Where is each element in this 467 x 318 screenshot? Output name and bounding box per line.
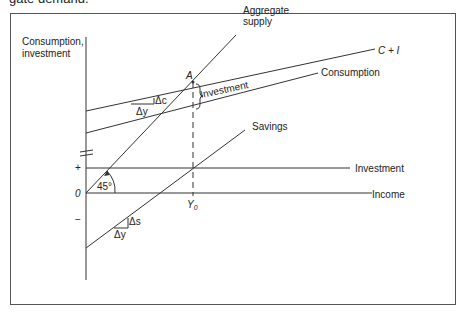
y-axis-label-2: investment xyxy=(22,48,71,59)
slope-triangle-savings xyxy=(114,218,128,228)
c-plus-i-line xyxy=(86,49,375,111)
delta-y-c-label: Δy xyxy=(136,106,148,117)
consumption-label: Consumption xyxy=(321,67,380,78)
c-plus-i-label: C + I xyxy=(378,45,400,56)
plus-label: + xyxy=(75,162,81,173)
y0-label: Y0 xyxy=(187,199,198,211)
savings-label: Savings xyxy=(252,121,288,132)
keynesian-cross-diagram: Consumption, investment + 0 − 45° A Y0 I… xyxy=(0,0,467,318)
y-axis-label-1: Consumption, xyxy=(22,36,84,47)
angle-label: 45° xyxy=(97,181,112,192)
aggregate-supply-label-2: supply xyxy=(243,16,272,27)
origin-label: 0 xyxy=(75,188,81,199)
point-a-label: A xyxy=(185,70,193,81)
aggregate-supply-label-1: Aggregate xyxy=(243,5,290,16)
delta-y-s-label: Δy xyxy=(114,229,126,240)
minus-label: − xyxy=(75,214,81,225)
income-label: Income xyxy=(372,189,405,200)
delta-s-label: Δs xyxy=(129,216,141,227)
delta-c-label: Δc xyxy=(155,95,167,106)
investment-label: Investment xyxy=(355,163,404,174)
